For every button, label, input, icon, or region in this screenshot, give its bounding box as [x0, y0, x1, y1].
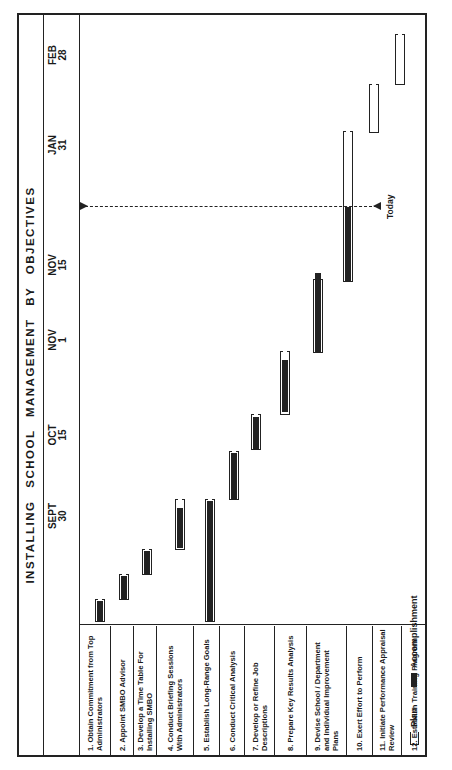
- gantt-chart: INSTALLING SCHOOL MANAGEMENT BY OBJECTIV…: [17, 13, 427, 757]
- accomplishment-bar: [282, 360, 288, 412]
- plan-bracket-end: [343, 131, 346, 132]
- plan-bracket-end: [369, 84, 372, 85]
- legend-plan: Plan: [409, 708, 419, 745]
- plan-bracket-end: [287, 351, 290, 352]
- accomplishment-bar: [97, 601, 103, 621]
- plan-bracket-end: [251, 414, 254, 415]
- today-arrow-bottom: [373, 203, 381, 211]
- accomplishment-bar: [177, 508, 183, 548]
- plan-bracket-end: [376, 84, 379, 85]
- time-tick: JAN31: [48, 125, 68, 165]
- plan-bracket-end: [102, 599, 105, 600]
- plan-bracket-end: [280, 351, 283, 352]
- legend-accomplishment: Accomplishment: [409, 595, 419, 687]
- time-tick: NOV1: [48, 320, 68, 360]
- plan-bracket-end: [95, 599, 98, 600]
- plan-bracket-end: [205, 499, 208, 500]
- accomplishment-legend-label: Accomplishment: [409, 595, 419, 668]
- today-marker-line: [80, 206, 377, 207]
- time-tick: FEB28: [48, 35, 68, 75]
- plan-bracket-end: [182, 499, 185, 500]
- accomplishment-bar: [144, 551, 150, 574]
- plan-bracket-end: [119, 574, 122, 575]
- time-tick: SEPT30: [48, 496, 68, 536]
- plan-bracket-end: [402, 34, 405, 35]
- time-tick: NOV15: [48, 245, 68, 285]
- plan-bracket-end: [258, 414, 261, 415]
- chart-title: INSTALLING SCHOOL MANAGEMENT BY OBJECTIV…: [17, 13, 44, 757]
- plan-bracket-end: [395, 34, 398, 35]
- plan-bracket: [395, 35, 405, 85]
- accomplishment-legend-icon: [411, 673, 417, 687]
- today-arrow-top: [80, 203, 88, 211]
- plan-legend-icon: [410, 732, 419, 745]
- plan-legend-label: Plan: [409, 708, 419, 727]
- accomplishment-bar: [231, 453, 237, 499]
- plan-bracket: [369, 85, 379, 133]
- accomplishment-bar: [253, 417, 259, 449]
- accomplishment-bar: [121, 576, 127, 599]
- plan-bracket-end: [142, 549, 145, 550]
- time-tick: OCT15: [48, 415, 68, 455]
- today-label: Today: [385, 195, 395, 219]
- accomplishment-bar: [315, 273, 321, 352]
- accomplishment-bar: [207, 501, 213, 621]
- plan-bracket-end: [149, 549, 152, 550]
- accomplishment-bar: [345, 207, 351, 282]
- date-axis: SEPT30OCT15NOV1NOV15JAN31FEB28: [44, 13, 80, 757]
- plan-bracket-end: [229, 451, 232, 452]
- plan-bracket-end: [175, 499, 178, 500]
- plan-bracket-end: [236, 451, 239, 452]
- plan-bracket-end: [212, 499, 215, 500]
- plan-bracket-end: [126, 574, 129, 575]
- plan-bracket-end: [350, 131, 353, 132]
